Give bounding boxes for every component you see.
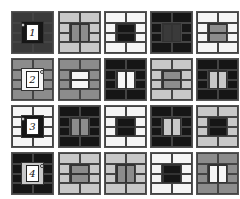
frame-segment	[181, 70, 192, 80]
center-half	[71, 24, 80, 42]
center-square	[208, 164, 227, 183]
marker-dot-icon	[40, 164, 44, 168]
pattern-tile	[196, 58, 239, 101]
frame-segment	[59, 89, 80, 100]
center-half	[71, 174, 89, 183]
frame-segment	[197, 136, 218, 147]
marker-dot-icon	[40, 70, 44, 74]
pattern-tile	[104, 58, 147, 101]
center-square	[208, 70, 227, 89]
center-half	[163, 80, 181, 89]
frame-segment	[151, 127, 162, 136]
frame-segment	[105, 80, 116, 89]
frame-segment	[89, 117, 100, 127]
frame-segment	[172, 89, 192, 100]
frame-segment	[181, 174, 192, 183]
frame-segment	[181, 164, 192, 174]
frame-segment	[59, 106, 80, 117]
frame-segment	[126, 42, 146, 53]
pattern-tile	[104, 11, 147, 54]
frame-segment	[89, 127, 100, 136]
puzzle-grid: 1234	[0, 0, 240, 199]
frame-segment	[105, 117, 116, 127]
frame-segment	[135, 164, 146, 174]
frame-segment	[105, 23, 116, 33]
frame-segment	[197, 70, 208, 80]
frame-segment	[172, 136, 192, 147]
frame-segment	[80, 106, 100, 117]
frame-segment	[126, 59, 146, 70]
frame-segment	[80, 136, 100, 147]
frame-segment	[89, 23, 100, 33]
center-half	[209, 71, 218, 89]
number-label: 1	[26, 24, 39, 41]
frame-segment	[227, 117, 238, 127]
frame-segment	[105, 127, 116, 136]
pattern-tile	[196, 11, 239, 54]
frame-segment	[181, 80, 192, 89]
frame-segment	[135, 23, 146, 33]
frame-segment	[89, 33, 100, 42]
frame-segment	[197, 42, 218, 53]
center-half	[209, 165, 218, 183]
frame-segment	[135, 174, 146, 183]
frame-segment	[227, 23, 238, 33]
center-half	[163, 165, 181, 174]
number-label: 2	[26, 71, 39, 88]
frame-segment	[80, 153, 100, 164]
center-half	[80, 24, 89, 42]
center-half	[218, 165, 227, 183]
center-half	[71, 71, 89, 80]
label-tile-3: 3	[11, 105, 54, 148]
pattern-tile	[150, 58, 193, 101]
center-half	[117, 165, 126, 183]
frame-segment	[89, 70, 100, 80]
frame-segment	[126, 153, 146, 164]
frame-segment	[59, 42, 80, 53]
frame-segment	[151, 117, 162, 127]
center-square	[116, 164, 135, 183]
frame-segment	[227, 174, 238, 183]
center-half	[172, 24, 181, 42]
pattern-tile	[104, 105, 147, 148]
center-half	[71, 80, 89, 89]
center-half	[209, 33, 227, 42]
frame-segment	[135, 117, 146, 127]
frame-segment	[89, 80, 100, 89]
frame-segment	[181, 127, 192, 136]
frame-segment	[89, 164, 100, 174]
marker-dot-icon	[21, 117, 25, 121]
center-square	[70, 23, 89, 42]
pattern-tile	[58, 152, 101, 195]
frame-segment	[89, 174, 100, 183]
center-half	[218, 71, 227, 89]
center-half	[163, 118, 172, 136]
center-square	[208, 23, 227, 42]
frame-segment	[80, 12, 100, 23]
frame-segment	[59, 12, 80, 23]
frame-segment	[59, 164, 70, 174]
frame-segment	[197, 117, 208, 127]
frame-segment	[227, 80, 238, 89]
center-half	[209, 24, 227, 33]
frame-segment	[197, 23, 208, 33]
frame-segment	[135, 33, 146, 42]
frame-segment	[197, 12, 218, 23]
center-square	[70, 70, 89, 89]
center-square	[116, 117, 135, 136]
frame-segment	[126, 89, 146, 100]
frame-segment	[105, 59, 126, 70]
center-half	[117, 118, 135, 127]
frame-segment	[105, 106, 126, 117]
frame-segment	[126, 106, 146, 117]
frame-segment	[59, 117, 70, 127]
frame-segment	[197, 89, 218, 100]
center-square	[208, 117, 227, 136]
center-half	[163, 24, 172, 42]
frame-segment	[218, 153, 238, 164]
frame-segment	[135, 127, 146, 136]
frame-segment	[197, 59, 218, 70]
frame-segment	[197, 153, 218, 164]
frame-segment	[80, 89, 100, 100]
pattern-tile	[58, 105, 101, 148]
